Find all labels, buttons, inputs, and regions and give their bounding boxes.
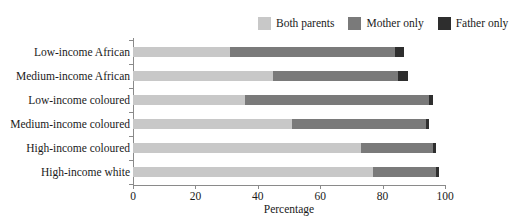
bar-segment[interactable] [133, 119, 292, 129]
x-axis-tick-label: 100 [436, 190, 453, 202]
chart-bar-row [133, 136, 445, 160]
bar-segment[interactable] [429, 95, 432, 105]
category-label: High-income white [0, 166, 130, 178]
category-label: Low-income African [0, 46, 130, 58]
bar-segment[interactable] [433, 143, 436, 153]
stacked-bar[interactable] [133, 119, 429, 129]
category-label: Medium-income African [0, 70, 130, 82]
bar-segment[interactable] [245, 95, 429, 105]
legend-swatch-icon [258, 17, 271, 30]
legend-item[interactable]: Father only [438, 17, 509, 30]
bar-segment[interactable] [292, 119, 426, 129]
x-axis-tick [320, 185, 321, 189]
stacked-bar[interactable] [133, 95, 433, 105]
chart-legend: Both parentsMother onlyFather only [258, 16, 513, 30]
chart-bar-row [133, 64, 445, 88]
y-axis-tick [129, 40, 133, 41]
bar-segment[interactable] [133, 95, 245, 105]
legend-swatch-icon [438, 17, 451, 30]
chart-bar-row [133, 112, 445, 136]
category-axis-labels: Low-income AfricanMedium-income AfricanL… [0, 40, 130, 184]
category-label: Low-income coloured [0, 94, 130, 106]
legend-swatch-icon [348, 17, 361, 30]
x-axis-tick-label: 40 [252, 190, 264, 202]
y-axis-tick [129, 160, 133, 161]
y-axis-tick [129, 136, 133, 137]
bar-segment[interactable] [133, 71, 273, 81]
bar-segment[interactable] [398, 71, 407, 81]
stacked-bar[interactable] [133, 167, 439, 177]
chart-bar-row [133, 88, 445, 112]
bar-segment[interactable] [133, 167, 373, 177]
legend-item[interactable]: Mother only [348, 17, 423, 30]
chart-bar-row [133, 160, 445, 184]
legend-label: Mother only [366, 17, 423, 30]
x-axis-tick [195, 185, 196, 189]
x-axis-tick-label: 80 [377, 190, 389, 202]
y-axis-tick [129, 112, 133, 113]
bar-segment[interactable] [426, 119, 429, 129]
stacked-bar[interactable] [133, 143, 436, 153]
bar-segment[interactable] [133, 47, 230, 57]
x-axis-tick-label: 20 [190, 190, 202, 202]
x-axis-tick [258, 185, 259, 189]
stacked-bar[interactable] [133, 47, 404, 57]
stacked-bar[interactable] [133, 71, 408, 81]
x-axis-tick-label: 60 [314, 190, 326, 202]
bar-segment[interactable] [273, 71, 398, 81]
legend-label: Both parents [276, 17, 334, 30]
legend-label: Father only [456, 17, 509, 30]
bar-segment[interactable] [373, 167, 435, 177]
x-axis-title: Percentage [133, 203, 445, 215]
chart-bar-row [133, 40, 445, 64]
bar-segment[interactable] [361, 143, 433, 153]
category-label: High-income coloured [0, 142, 130, 154]
bar-segment[interactable] [230, 47, 395, 57]
bar-segment[interactable] [436, 167, 439, 177]
x-axis-tick-label: 0 [130, 190, 136, 202]
x-axis-tick [383, 185, 384, 189]
y-axis-tick [129, 64, 133, 65]
legend-item[interactable]: Both parents [258, 17, 334, 30]
plot-area [133, 40, 445, 184]
x-axis-tick [445, 185, 446, 189]
x-axis-tick [133, 185, 134, 189]
bar-segment[interactable] [395, 47, 404, 57]
bar-segment[interactable] [133, 143, 361, 153]
category-label: Medium-income coloured [0, 118, 130, 130]
y-axis-tick [129, 88, 133, 89]
